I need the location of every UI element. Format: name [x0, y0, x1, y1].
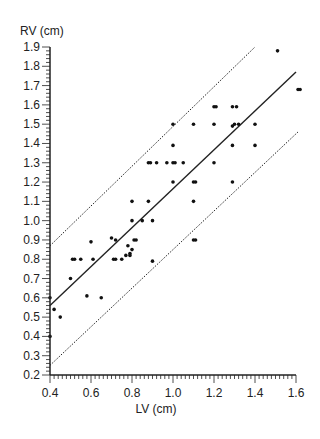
data-point [114, 257, 118, 261]
x-axis-ticks: 0.40.60.81.01.21.41.6 [42, 375, 305, 400]
y-tick-label: 0.6 [23, 291, 40, 305]
data-point [79, 257, 83, 261]
x-axis-title: LV (cm) [135, 402, 176, 416]
data-point [52, 308, 56, 312]
data-point [110, 236, 114, 240]
data-point [171, 180, 175, 184]
y-tick-label: 0.8 [23, 252, 40, 266]
data-point [128, 254, 132, 258]
y-tick-label: 1.0 [23, 214, 40, 228]
axes: 0.20.30.40.50.60.70.80.91.01.11.21.31.41… [23, 40, 304, 400]
data-point [192, 122, 196, 126]
data-point [192, 200, 196, 204]
y-tick-label: 0.2 [23, 368, 40, 382]
data-point [151, 259, 155, 263]
data-point [134, 238, 138, 242]
data-point [171, 144, 175, 148]
upper-limit-line [50, 47, 255, 246]
x-tick-label: 1.4 [247, 386, 264, 400]
data-point [253, 122, 257, 126]
data-point [120, 257, 124, 261]
data-point [231, 144, 235, 148]
data-point [130, 248, 134, 252]
data-point [194, 238, 198, 242]
data-point [235, 105, 239, 109]
data-point [212, 161, 216, 165]
data-point [165, 161, 169, 165]
regression-line [50, 72, 296, 305]
data-point [231, 105, 235, 109]
data-point [126, 244, 130, 248]
data-point [253, 144, 257, 148]
y-tick-label: 1.9 [23, 40, 40, 54]
data-point [173, 161, 177, 165]
data-point [298, 88, 302, 92]
data-point [73, 257, 77, 261]
data-point [233, 122, 237, 126]
data-point [214, 105, 218, 109]
data-point [276, 49, 280, 53]
x-tick-label: 1.0 [165, 386, 182, 400]
y-tick-label: 1.3 [23, 156, 40, 170]
data-point [212, 122, 216, 126]
data-point [130, 219, 134, 223]
data-point [130, 200, 134, 204]
data-point [85, 294, 89, 298]
y-tick-label: 1.1 [23, 194, 40, 208]
y-tick-label: 1.8 [23, 59, 40, 73]
data-point [194, 180, 198, 184]
data-point [155, 161, 159, 165]
data-point [91, 257, 95, 261]
x-tick-label: 0.8 [124, 386, 141, 400]
data-point [171, 122, 175, 126]
y-tick-label: 1.2 [23, 175, 40, 189]
x-tick-label: 1.2 [206, 386, 223, 400]
lower-limit-line [50, 132, 298, 365]
x-tick-label: 0.6 [83, 386, 100, 400]
y-tick-label: 0.9 [23, 233, 40, 247]
fit-lines [50, 47, 298, 365]
y-tick-label: 1.6 [23, 98, 40, 112]
y-tick-label: 0.3 [23, 349, 40, 363]
data-point [124, 254, 128, 258]
y-tick-label: 0.4 [23, 329, 40, 343]
scatter-chart: 0.20.30.40.50.60.70.80.91.01.11.21.31.41… [0, 0, 320, 439]
data-point [89, 240, 93, 244]
y-axis-ticks: 0.20.30.40.50.60.70.80.91.01.11.21.31.41… [23, 40, 50, 382]
x-tick-label: 0.4 [42, 386, 59, 400]
data-point [231, 180, 235, 184]
data-point [99, 296, 103, 300]
data-point [149, 161, 153, 165]
data-point [69, 277, 73, 281]
data-point [151, 219, 155, 223]
data-point [181, 161, 185, 165]
y-tick-label: 0.5 [23, 310, 40, 324]
x-tick-label: 1.6 [288, 386, 305, 400]
data-points [48, 49, 302, 338]
data-point [58, 315, 62, 319]
y-tick-label: 1.7 [23, 79, 40, 93]
y-tick-label: 1.5 [23, 117, 40, 131]
data-point [114, 238, 118, 242]
y-axis-title: RV (cm) [20, 24, 64, 38]
data-point [147, 200, 151, 204]
data-point [237, 122, 241, 126]
y-tick-label: 1.4 [23, 136, 40, 150]
y-tick-label: 0.7 [23, 272, 40, 286]
data-point [140, 219, 144, 223]
